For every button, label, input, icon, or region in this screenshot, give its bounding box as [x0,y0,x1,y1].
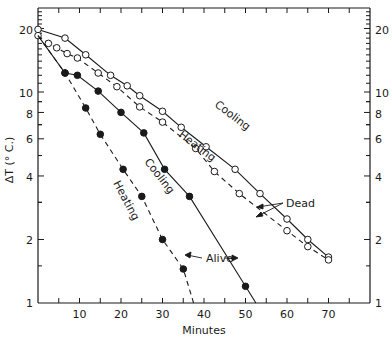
x-tick-label: 50 [239,308,253,321]
data-point [139,193,146,200]
data-point [242,283,249,290]
data-point [114,83,121,90]
x-tick-labels: 10 20 30 40 50 60 70 [73,308,336,321]
x-tick-label: 60 [280,308,294,321]
data-series [35,26,332,303]
label-alive-heating: Heating [110,178,142,222]
label-dead: Dead [286,197,315,210]
series-line [38,36,194,303]
data-point [118,109,125,116]
data-point [325,257,332,264]
data-point [74,55,81,62]
data-point [232,166,239,173]
data-point [62,70,69,77]
data-point [236,190,243,197]
data-point [284,227,291,234]
x-tick-label: 70 [322,308,336,321]
data-point [97,131,104,138]
label-alive-cooling: Cooling [142,156,178,196]
y-tick-label: 1 [375,297,382,310]
y-tick-label: 10 [375,87,389,100]
y-tick-labels-right: 20 10 8 6 4 2 1 [375,24,389,310]
y-tick-label: 2 [375,234,382,247]
y-tick-label: 4 [26,171,33,184]
data-point [62,35,69,42]
data-point [120,166,127,173]
data-point [159,236,166,243]
data-point [136,92,143,99]
y-tick-label: 1 [26,297,33,310]
data-point [35,26,42,33]
y-tick-label: 20 [375,24,389,37]
x-tick-label: 10 [73,308,87,321]
x-tick-label: 20 [114,308,128,321]
y-tick-label: 4 [375,171,382,184]
data-point [95,70,102,77]
data-point [141,130,148,137]
data-point [284,216,291,223]
y-tick-label: 8 [375,108,382,121]
data-point [53,45,60,52]
data-point [82,52,89,59]
y-tick-labels-left: 20 10 8 6 4 2 1 [19,24,33,310]
data-point [64,50,71,57]
y-tick-label: 10 [19,87,33,100]
data-point [305,243,312,250]
data-point [95,88,102,95]
x-axis-title: Minutes [182,324,226,337]
data-point [82,105,89,112]
data-point [107,72,114,79]
label-dead-heating: Heating [176,128,218,164]
data-point [159,119,166,126]
data-point [136,104,143,111]
label-dead-cooling: Cooling [212,98,253,133]
data-point [186,193,193,200]
data-point [159,108,166,115]
y-tick-label: 2 [26,234,33,247]
y-axis-title: ΔT (° C.) [3,137,16,184]
chart: 10 20 30 40 50 60 70 20 10 8 6 4 2 1 20 … [0,0,392,341]
y-tick-label: 6 [26,133,33,146]
label-alive: Alive [206,252,233,265]
data-point [305,236,312,243]
y-tick-label: 20 [19,24,33,37]
data-point [74,72,81,79]
data-point [257,190,264,197]
data-point [211,168,218,175]
data-point [180,266,187,273]
y-tick-label: 6 [375,133,382,146]
data-point [45,40,52,47]
y-axis-ticks [38,12,370,266]
y-tick-label: 8 [26,108,33,121]
series-line [38,36,329,260]
data-point [124,83,131,90]
x-tick-label: 40 [197,308,211,321]
x-tick-label: 30 [156,308,170,321]
